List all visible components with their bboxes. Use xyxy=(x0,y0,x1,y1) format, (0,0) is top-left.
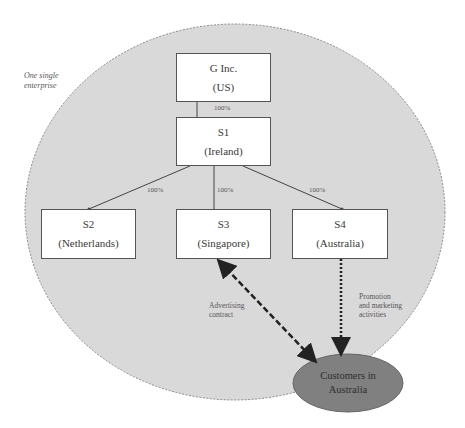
node-country: (US) xyxy=(213,78,234,97)
label-line-2: contract xyxy=(209,310,244,319)
enterprise-label-line-1: One single xyxy=(24,71,58,81)
node-country: (Singapore) xyxy=(198,234,250,253)
advertising-contract-label: Advertising contract xyxy=(209,301,244,319)
node-name: G Inc. xyxy=(210,59,238,78)
node-s2: S2 (Netherlands) xyxy=(41,209,136,259)
node-country: (Australia) xyxy=(316,234,364,253)
label-line-2: and marketing xyxy=(359,301,402,310)
node-s3: S3 (Singapore) xyxy=(176,209,271,259)
customers-line-2: Australia xyxy=(329,383,368,397)
label-line-1: Promotion xyxy=(359,292,402,301)
ownership-label-s1-s2: 100% xyxy=(147,186,163,194)
node-customers: Customers in Australia xyxy=(293,354,403,412)
promotion-activities-label: Promotion and marketing activities xyxy=(359,292,402,319)
node-s1: S1 (Ireland) xyxy=(176,117,271,166)
customers-line-1: Customers in xyxy=(320,369,376,383)
ownership-label-parent-s1: 100% xyxy=(214,104,230,112)
node-country: (Ireland) xyxy=(204,142,242,161)
ownership-label-s1-s4: 100% xyxy=(309,186,325,194)
label-line-3: activities xyxy=(359,310,402,319)
node-name: S4 xyxy=(334,215,346,234)
node-s4: S4 (Australia) xyxy=(292,209,388,259)
node-g-inc: G Inc. (US) xyxy=(176,53,271,102)
node-name: S1 xyxy=(218,123,230,142)
label-line-1: Advertising xyxy=(209,301,244,310)
enterprise-label-line-2: enterprise xyxy=(24,81,58,91)
ownership-label-s1-s3: 100% xyxy=(217,186,233,194)
node-name: S2 xyxy=(83,215,95,234)
node-country: (Netherlands) xyxy=(58,234,118,253)
node-name: S3 xyxy=(218,215,230,234)
enterprise-label: One single enterprise xyxy=(24,71,58,91)
